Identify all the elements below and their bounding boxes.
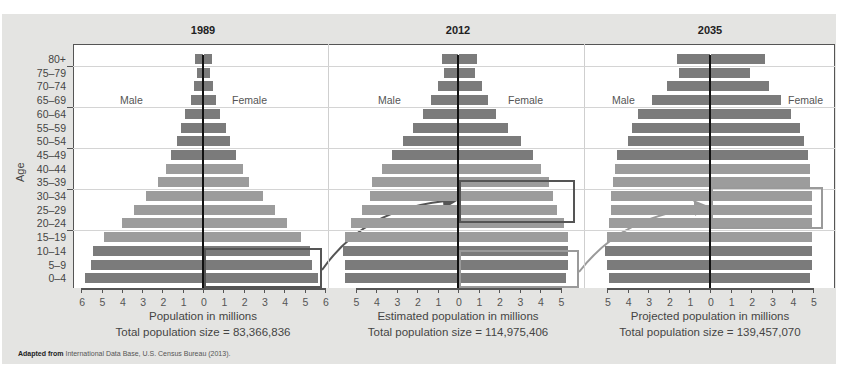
- x-tick: [356, 288, 357, 293]
- female-label: Female: [232, 94, 267, 106]
- age-label: 10–14: [18, 245, 66, 257]
- bar-male: [679, 68, 710, 78]
- bar-male: [93, 246, 203, 256]
- x-tick: [607, 288, 608, 293]
- x-tick-label: 2: [160, 296, 166, 308]
- bar-female: [711, 232, 812, 242]
- bar-male: [607, 260, 710, 270]
- x-tick: [520, 288, 521, 293]
- x-tick: [417, 288, 418, 293]
- bar-female: [459, 109, 496, 119]
- panel-divider: [328, 44, 329, 288]
- age-label: 35–39: [18, 176, 66, 188]
- bar-male: [613, 177, 710, 187]
- x-tick: [540, 288, 541, 293]
- male-label: Male: [120, 94, 143, 106]
- x-tick: [264, 288, 265, 293]
- bar-male: [652, 95, 710, 105]
- bar-female: [711, 150, 808, 160]
- x-tick: [223, 288, 224, 293]
- x-tick-label: 3: [395, 296, 401, 308]
- bar-male: [345, 232, 458, 242]
- bar-male: [403, 136, 458, 146]
- x-tick-label: 3: [262, 296, 268, 308]
- age-label: 40–44: [18, 163, 66, 175]
- bar-female: [204, 164, 243, 174]
- x-tick: [325, 288, 326, 293]
- age-label: 70–74: [18, 80, 66, 92]
- y-tick: [67, 148, 73, 149]
- bar-female: [711, 164, 810, 174]
- x-tick-label: 6: [79, 296, 85, 308]
- bar-female: [459, 123, 508, 133]
- x-tick-label: 4: [374, 296, 380, 308]
- bar-female: [459, 54, 477, 64]
- age-label: 5–9: [18, 259, 66, 271]
- x-tick: [203, 288, 204, 293]
- bar-female: [204, 150, 236, 160]
- bar-female: [204, 95, 216, 105]
- x-tick-label: 1: [729, 296, 735, 308]
- bar-female: [711, 273, 810, 283]
- bar-female: [711, 68, 750, 78]
- x-tick-label: 2: [242, 296, 248, 308]
- x-tick-label: 1: [687, 296, 693, 308]
- x-tick-label: 5: [811, 296, 817, 308]
- x-tick-label: 2: [749, 296, 755, 308]
- x-tick-label: 2: [497, 296, 503, 308]
- bar-female: [204, 136, 230, 146]
- bar-male: [442, 54, 458, 64]
- bar-male: [611, 205, 710, 215]
- x-axis-title: Projected population in millions: [631, 310, 790, 322]
- bar-male: [677, 54, 710, 64]
- bar-male: [351, 218, 458, 228]
- age-label: 20–24: [18, 217, 66, 229]
- x-tick-label: 1: [477, 296, 483, 308]
- x-tick-label: 5: [559, 296, 565, 308]
- x-tick-label: 5: [354, 296, 360, 308]
- y-tick: [67, 107, 73, 108]
- total-population: Total population size = 114,975,406: [368, 326, 548, 338]
- bar-female: [459, 136, 521, 146]
- x-tick: [162, 288, 163, 293]
- age-label: 80+: [18, 53, 66, 65]
- bar-male: [413, 123, 458, 133]
- total-population: Total population size = 83,366,836: [116, 326, 291, 338]
- bar-male: [343, 246, 458, 256]
- bar-male: [345, 260, 458, 270]
- bar-female: [204, 109, 220, 119]
- bar-female: [711, 109, 791, 119]
- bar-male: [444, 68, 458, 78]
- bar-male: [372, 177, 458, 187]
- x-tick: [102, 288, 103, 293]
- x-tick-label: 6: [323, 296, 329, 308]
- x-tick: [183, 288, 184, 293]
- bar-female: [204, 123, 226, 133]
- x-tick: [648, 288, 649, 293]
- y-tick: [67, 66, 73, 67]
- female-label: Female: [508, 94, 543, 106]
- x-tick: [122, 288, 123, 293]
- bar-male: [134, 205, 203, 215]
- center-axis-line: [709, 55, 711, 288]
- bar-male: [638, 109, 710, 119]
- bar-male: [609, 273, 710, 283]
- bar-male: [632, 123, 710, 133]
- bar-female: [204, 68, 210, 78]
- bar-female: [711, 136, 804, 146]
- x-tick: [813, 288, 814, 293]
- x-tick-label: 4: [538, 296, 544, 308]
- bar-female: [459, 68, 475, 78]
- bar-male: [362, 205, 458, 215]
- bar-female: [711, 123, 800, 133]
- y-tick: [67, 189, 73, 190]
- bar-male: [667, 81, 710, 91]
- highlight-box-2035-cohort: [711, 187, 823, 229]
- x-tick-label: 4: [790, 296, 796, 308]
- bar-male: [181, 123, 203, 133]
- panel-title-2035: 2035: [698, 24, 722, 36]
- bar-male: [611, 191, 710, 201]
- bar-male: [122, 218, 203, 228]
- bar-male: [177, 136, 203, 146]
- bar-female: [711, 54, 765, 64]
